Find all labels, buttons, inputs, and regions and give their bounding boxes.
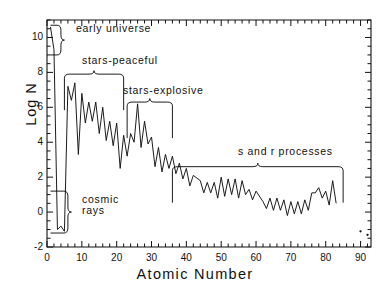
x-tick-label: 20 <box>105 252 129 263</box>
x-tick-label: 30 <box>140 252 164 263</box>
x-tick-label: 70 <box>279 252 303 263</box>
annotation-cosmic-rays-line2: rays <box>82 204 105 216</box>
y-tick-label: 8 <box>22 66 43 77</box>
annotation-stars-explosive: stars-explosive <box>123 84 204 96</box>
y-tick-label: 4 <box>22 136 43 147</box>
x-tick-label: 40 <box>174 252 198 263</box>
y-tick-label: 0 <box>22 206 43 217</box>
x-tick-label: 60 <box>244 252 268 263</box>
x-tick-label: 10 <box>70 252 94 263</box>
y-tick-label: 6 <box>22 101 43 112</box>
x-axis-title: Atomic Number <box>95 266 295 282</box>
abundance-chart-figure: Log N Atomic Number early universe stars… <box>0 0 389 292</box>
y-tick-label: -2 <box>22 241 43 252</box>
x-tick-label: 80 <box>314 252 338 263</box>
annotation-stars-peaceful: stars-peaceful <box>82 54 158 66</box>
x-tick-label: 90 <box>349 252 373 263</box>
y-tick-label: 10 <box>22 31 43 42</box>
y-tick-label: 2 <box>22 171 43 182</box>
actinide-points <box>359 230 368 236</box>
x-tick-label: 0 <box>35 252 59 263</box>
annotation-s-and-r-processes: s and r processes <box>238 145 333 157</box>
x-tick-label: 50 <box>209 252 233 263</box>
annotation-early-universe: early universe <box>76 22 151 34</box>
annotation-cosmic-rays: cosmic rays <box>82 194 119 216</box>
